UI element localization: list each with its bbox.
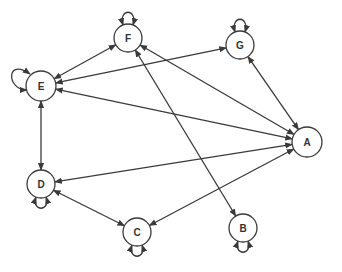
node-label: B (239, 223, 246, 234)
edge-e-g (56, 48, 227, 83)
edge-c-a (149, 149, 293, 225)
node-c: C (123, 218, 151, 246)
node-label: E (38, 81, 45, 92)
edge-e-f (54, 45, 116, 79)
self-loop-f (122, 12, 134, 25)
edge-d-a (55, 144, 292, 181)
self-loop-b (237, 241, 249, 252)
node-a: A (292, 127, 322, 157)
edges-layer (41, 45, 298, 226)
node-label: A (303, 137, 310, 148)
node-d: D (27, 170, 55, 198)
self-loop-g (234, 19, 246, 32)
node-f: F (114, 24, 142, 52)
edge-f-b (135, 50, 236, 216)
node-label: F (125, 33, 131, 44)
edge-g-a (248, 57, 299, 130)
graph-diagram: FGEADCB (0, 0, 342, 272)
self-loop-d (35, 197, 47, 208)
node-b: B (229, 214, 257, 242)
node-e: E (26, 71, 56, 101)
node-label: C (133, 227, 140, 238)
self-loop-c (131, 245, 143, 256)
node-g: G (226, 31, 254, 59)
node-label: G (236, 40, 244, 51)
node-label: D (37, 179, 44, 190)
edge-d-c (54, 190, 125, 225)
